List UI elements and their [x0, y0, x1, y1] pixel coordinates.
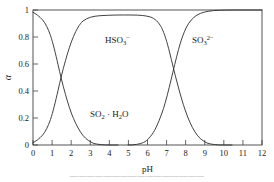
x-tickmarks — [33, 140, 262, 145]
y-tick-label: 0.4 — [18, 86, 29, 96]
y-tick-label: 0 — [25, 140, 29, 150]
x-tick-label: 6 — [145, 148, 149, 158]
x-tick-label: 1 — [50, 148, 54, 158]
y-tick-labels: 0 0.2 0.4 0.6 0.8 1 — [18, 5, 29, 150]
y-tickmarks — [33, 10, 38, 145]
y-tick-label: 0.2 — [18, 113, 29, 123]
plot-frame — [33, 10, 262, 145]
curve-so3 — [128, 10, 262, 145]
speciation-diagram-figure: 0 1 2 3 4 5 6 7 8 9 10 11 12 0 0.2 0.4 0… — [0, 0, 274, 182]
y-tick-label: 0.8 — [18, 32, 29, 42]
x-tick-label: 2 — [69, 148, 73, 158]
x-tick-label: 5 — [126, 148, 130, 158]
y-tick-label: 0.6 — [18, 59, 29, 69]
x-tick-labels: 0 1 2 3 4 5 6 7 8 9 10 11 12 — [31, 148, 266, 158]
series-label-hso3: HSO3− — [105, 34, 130, 47]
x-tick-label: 10 — [220, 148, 229, 158]
x-tick-label: 11 — [239, 148, 247, 158]
x-tick-label: 12 — [258, 148, 267, 158]
series-label-so3: SO32− — [192, 34, 214, 47]
plot-canvas: 0 1 2 3 4 5 6 7 8 9 10 11 12 0 0.2 0.4 0… — [0, 0, 274, 182]
x-tick-label: 8 — [184, 148, 188, 158]
x-tick-label: 7 — [164, 148, 168, 158]
x-tick-label: 9 — [203, 148, 207, 158]
y-tick-label: 1 — [25, 5, 29, 15]
x-tick-label: 0 — [31, 148, 35, 158]
caption-partial-text: ———————————————— — [0, 171, 274, 182]
series-label-so2-h2o: SO2 · H2O — [90, 109, 129, 120]
x-tick-label: 3 — [88, 148, 92, 158]
y-axis-title: α — [2, 74, 13, 80]
x-tick-label: 4 — [107, 148, 112, 158]
